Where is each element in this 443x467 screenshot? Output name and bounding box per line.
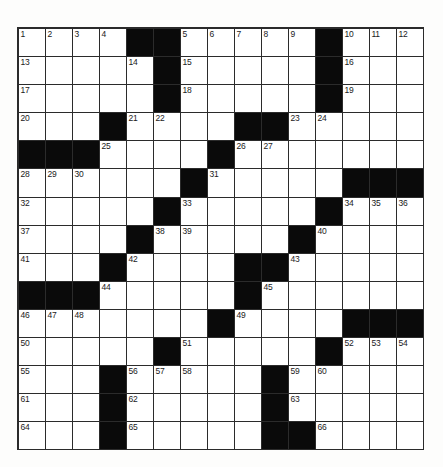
crossword-cell[interactable]: 30 <box>73 169 100 197</box>
crossword-cell[interactable] <box>73 254 100 282</box>
crossword-cell[interactable] <box>262 310 289 338</box>
crossword-cell[interactable]: 11 <box>370 29 397 57</box>
crossword-cell[interactable] <box>208 422 235 450</box>
crossword-cell[interactable] <box>181 254 208 282</box>
crossword-cell[interactable] <box>73 394 100 422</box>
crossword-cell[interactable] <box>397 113 424 141</box>
crossword-cell[interactable]: 44 <box>100 282 127 310</box>
crossword-cell[interactable] <box>46 226 73 254</box>
crossword-cell[interactable] <box>235 85 262 113</box>
crossword-cell[interactable] <box>208 198 235 226</box>
crossword-cell[interactable] <box>370 226 397 254</box>
crossword-cell[interactable] <box>370 394 397 422</box>
crossword-cell[interactable] <box>154 422 181 450</box>
crossword-cell[interactable] <box>154 169 181 197</box>
crossword-cell[interactable] <box>73 422 100 450</box>
crossword-cell[interactable] <box>289 169 316 197</box>
crossword-cell[interactable]: 10 <box>343 29 370 57</box>
crossword-cell[interactable] <box>100 57 127 85</box>
crossword-cell[interactable] <box>397 141 424 169</box>
crossword-cell[interactable] <box>262 85 289 113</box>
crossword-cell[interactable] <box>343 366 370 394</box>
crossword-cell[interactable] <box>370 85 397 113</box>
crossword-cell[interactable] <box>343 226 370 254</box>
crossword-cell[interactable] <box>46 366 73 394</box>
crossword-cell[interactable] <box>397 85 424 113</box>
crossword-cell[interactable] <box>235 394 262 422</box>
crossword-cell[interactable] <box>370 254 397 282</box>
crossword-cell[interactable]: 38 <box>154 226 181 254</box>
crossword-cell[interactable] <box>127 310 154 338</box>
crossword-cell[interactable]: 53 <box>370 338 397 366</box>
crossword-cell[interactable]: 40 <box>316 226 343 254</box>
crossword-cell[interactable] <box>208 394 235 422</box>
crossword-cell[interactable]: 5 <box>181 29 208 57</box>
crossword-cell[interactable] <box>100 198 127 226</box>
crossword-cell[interactable] <box>316 169 343 197</box>
crossword-cell[interactable]: 21 <box>127 113 154 141</box>
crossword-cell[interactable]: 17 <box>19 85 46 113</box>
crossword-cell[interactable]: 24 <box>316 113 343 141</box>
crossword-cell[interactable] <box>127 282 154 310</box>
crossword-cell[interactable] <box>235 366 262 394</box>
crossword-cell[interactable]: 58 <box>181 366 208 394</box>
crossword-cell[interactable] <box>46 113 73 141</box>
crossword-cell[interactable] <box>289 338 316 366</box>
crossword-cell[interactable] <box>262 226 289 254</box>
crossword-cell[interactable]: 15 <box>181 57 208 85</box>
crossword-cell[interactable]: 39 <box>181 226 208 254</box>
crossword-cell[interactable] <box>370 366 397 394</box>
crossword-cell[interactable]: 42 <box>127 254 154 282</box>
crossword-cell[interactable] <box>370 282 397 310</box>
crossword-cell[interactable] <box>262 169 289 197</box>
crossword-cell[interactable] <box>46 338 73 366</box>
crossword-cell[interactable] <box>181 394 208 422</box>
crossword-cell[interactable]: 46 <box>19 310 46 338</box>
crossword-cell[interactable] <box>100 169 127 197</box>
crossword-cell[interactable] <box>208 113 235 141</box>
crossword-cell[interactable]: 25 <box>100 141 127 169</box>
crossword-cell[interactable] <box>370 113 397 141</box>
crossword-cell[interactable]: 4 <box>100 29 127 57</box>
crossword-cell[interactable] <box>208 57 235 85</box>
crossword-cell[interactable]: 60 <box>316 366 343 394</box>
crossword-cell[interactable]: 50 <box>19 338 46 366</box>
crossword-cell[interactable] <box>100 226 127 254</box>
crossword-cell[interactable]: 34 <box>343 198 370 226</box>
crossword-cell[interactable] <box>46 394 73 422</box>
crossword-cell[interactable] <box>235 338 262 366</box>
crossword-cell[interactable]: 13 <box>19 57 46 85</box>
crossword-cell[interactable] <box>73 113 100 141</box>
crossword-cell[interactable] <box>343 282 370 310</box>
crossword-cell[interactable] <box>154 141 181 169</box>
crossword-cell[interactable]: 37 <box>19 226 46 254</box>
crossword-cell[interactable] <box>289 198 316 226</box>
crossword-cell[interactable] <box>316 254 343 282</box>
crossword-cell[interactable]: 51 <box>181 338 208 366</box>
crossword-cell[interactable] <box>397 422 424 450</box>
crossword-cell[interactable] <box>262 338 289 366</box>
crossword-cell[interactable] <box>46 254 73 282</box>
crossword-cell[interactable]: 14 <box>127 57 154 85</box>
crossword-cell[interactable] <box>208 282 235 310</box>
crossword-cell[interactable] <box>46 57 73 85</box>
crossword-cell[interactable] <box>397 282 424 310</box>
crossword-cell[interactable]: 20 <box>19 113 46 141</box>
crossword-cell[interactable]: 36 <box>397 198 424 226</box>
crossword-cell[interactable]: 61 <box>19 394 46 422</box>
crossword-cell[interactable] <box>181 282 208 310</box>
crossword-cell[interactable]: 54 <box>397 338 424 366</box>
crossword-cell[interactable] <box>397 366 424 394</box>
crossword-cell[interactable] <box>316 282 343 310</box>
crossword-cell[interactable] <box>154 310 181 338</box>
crossword-cell[interactable]: 57 <box>154 366 181 394</box>
crossword-cell[interactable] <box>127 338 154 366</box>
crossword-cell[interactable] <box>127 169 154 197</box>
crossword-cell[interactable] <box>181 113 208 141</box>
crossword-cell[interactable]: 48 <box>73 310 100 338</box>
crossword-cell[interactable]: 62 <box>127 394 154 422</box>
crossword-cell[interactable] <box>100 338 127 366</box>
crossword-cell[interactable] <box>154 254 181 282</box>
crossword-cell[interactable] <box>343 254 370 282</box>
crossword-cell[interactable] <box>397 57 424 85</box>
